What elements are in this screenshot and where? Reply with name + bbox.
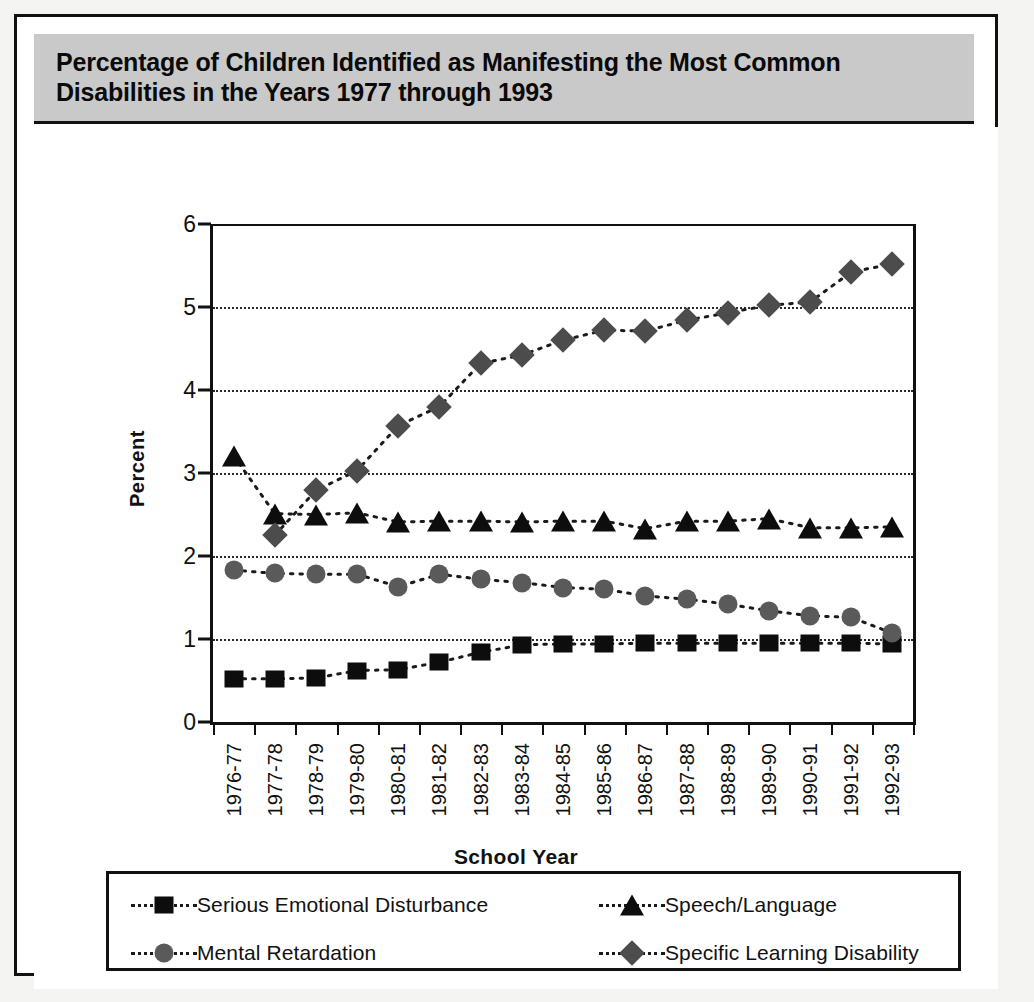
triangle-marker-icon xyxy=(386,511,410,532)
diamond-marker-icon xyxy=(619,940,644,965)
triangle-marker-icon xyxy=(633,518,657,539)
square-marker-icon xyxy=(636,635,655,652)
legend-label: Speech/Language xyxy=(665,893,837,917)
scanned-page: Percentage of Children Identified as Man… xyxy=(0,0,1034,1002)
square-marker-icon xyxy=(801,635,820,652)
legend-marker-sample xyxy=(131,893,197,917)
triangle-marker-icon xyxy=(222,445,246,466)
triangle-marker-icon xyxy=(345,502,369,523)
square-marker-icon xyxy=(677,635,696,652)
x-tick-label: 1988-89 xyxy=(716,743,739,816)
x-tick-label: 1986-87 xyxy=(634,743,657,816)
chart-title: Percentage of Children Identified as Man… xyxy=(34,48,974,107)
legend-marker-sample xyxy=(131,941,197,965)
circle-marker-icon xyxy=(801,606,820,625)
x-tick-mark xyxy=(460,722,462,735)
triangle-marker-icon xyxy=(469,511,493,532)
x-tick-mark xyxy=(584,722,586,735)
legend-marker-sample xyxy=(599,893,665,917)
x-tick-label: 1989-90 xyxy=(757,743,780,816)
square-marker-icon xyxy=(842,635,861,652)
square-marker-icon xyxy=(554,635,573,652)
x-tick-mark xyxy=(337,722,339,735)
circle-marker-icon xyxy=(430,565,449,584)
triangle-marker-icon xyxy=(675,511,699,532)
legend-item[interactable]: Mental Retardation xyxy=(131,936,376,970)
circle-marker-icon xyxy=(677,590,696,609)
x-tick-mark xyxy=(501,722,503,735)
legend-item[interactable]: Speech/Language xyxy=(599,888,837,922)
title-banner: Percentage of Children Identified as Man… xyxy=(34,34,974,124)
x-tick-label: 1991-92 xyxy=(840,743,863,816)
circle-marker-icon xyxy=(883,624,902,643)
x-tick-label: 1978-79 xyxy=(304,743,327,816)
legend-label: Specific Learning Disability xyxy=(665,941,919,965)
x-tick-label: 1976-77 xyxy=(222,743,245,816)
legend-item[interactable]: Specific Learning Disability xyxy=(599,936,919,970)
x-tick-label: 1984-85 xyxy=(552,743,575,816)
triangle-marker-icon xyxy=(263,503,287,524)
chart-area: Percent 0123456 1976-771977-781978-79197… xyxy=(34,127,998,989)
triangle-marker-icon xyxy=(798,517,822,538)
triangle-marker-icon xyxy=(551,511,575,532)
square-marker-icon xyxy=(512,636,531,653)
circle-marker-icon xyxy=(224,561,243,580)
circle-marker-icon xyxy=(348,565,367,584)
circle-marker-icon xyxy=(759,601,778,620)
x-tick-label: 1977-78 xyxy=(263,743,286,816)
circle-marker-icon xyxy=(471,570,490,589)
square-marker-icon xyxy=(265,670,284,687)
circle-marker-icon xyxy=(595,580,614,599)
circle-marker-icon xyxy=(718,595,737,614)
square-marker-icon xyxy=(224,670,243,687)
x-tick-mark xyxy=(419,722,421,735)
x-tick-label: 1987-88 xyxy=(675,743,698,816)
x-tick-label: 1983-84 xyxy=(510,743,533,816)
x-tick-mark xyxy=(378,722,380,735)
triangle-marker-icon xyxy=(839,517,863,538)
square-marker-icon xyxy=(430,654,449,671)
x-tick-mark xyxy=(913,722,915,735)
circle-marker-icon xyxy=(554,578,573,597)
x-tick-label: 1981-82 xyxy=(428,743,451,816)
legend-item[interactable]: Serious Emotional Disturbance xyxy=(131,888,488,922)
triangle-marker-icon xyxy=(757,508,781,529)
x-tick-mark xyxy=(625,722,627,735)
triangle-marker-icon xyxy=(716,511,740,532)
x-tick-mark xyxy=(666,722,668,735)
circle-marker-icon xyxy=(389,577,408,596)
square-marker-icon xyxy=(718,635,737,652)
x-tick-mark xyxy=(213,722,215,735)
square-marker-icon xyxy=(595,635,614,652)
circle-marker-icon xyxy=(306,565,325,584)
legend-label: Mental Retardation xyxy=(197,941,376,965)
x-tick-mark xyxy=(748,722,750,735)
triangle-marker-icon xyxy=(880,516,904,537)
circle-marker-icon xyxy=(842,608,861,627)
circle-marker-icon xyxy=(155,944,174,963)
square-marker-icon xyxy=(389,661,408,678)
triangle-marker-icon xyxy=(510,511,534,532)
figure-frame: Percentage of Children Identified as Man… xyxy=(14,14,998,976)
square-marker-icon xyxy=(759,635,778,652)
chart-legend: Serious Emotional DisturbanceSpeech/Lang… xyxy=(106,871,961,971)
square-marker-icon xyxy=(348,662,367,679)
x-tick-mark xyxy=(789,722,791,735)
x-tick-mark xyxy=(872,722,874,735)
legend-label: Serious Emotional Disturbance xyxy=(197,893,488,917)
x-tick-label: 1990-91 xyxy=(799,743,822,816)
square-marker-icon xyxy=(306,670,325,687)
x-tick-mark xyxy=(542,722,544,735)
x-tick-mark xyxy=(254,722,256,735)
triangle-marker-icon xyxy=(304,504,328,525)
circle-marker-icon xyxy=(265,564,284,583)
square-marker-icon xyxy=(155,897,174,914)
x-tick-mark xyxy=(707,722,709,735)
x-tick-label: 1979-80 xyxy=(346,743,369,816)
x-tick-label: 1985-86 xyxy=(593,743,616,816)
triangle-marker-icon xyxy=(592,511,616,532)
x-tick-label: 1992-93 xyxy=(881,743,904,816)
square-marker-icon xyxy=(471,644,490,661)
x-tick-label: 1980-81 xyxy=(387,743,410,816)
circle-marker-icon xyxy=(636,586,655,605)
